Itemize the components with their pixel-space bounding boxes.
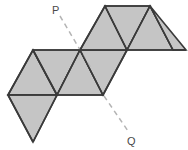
- point-label-p: P: [52, 4, 59, 16]
- axis-front-group: [104, 96, 128, 131]
- axis-pq-lower-segment: [104, 96, 128, 131]
- point-label-q: Q: [127, 135, 136, 147]
- net-faces-group: [8, 6, 186, 142]
- net-diagram: P Q: [0, 0, 188, 150]
- net-face-left-lower: [8, 95, 57, 142]
